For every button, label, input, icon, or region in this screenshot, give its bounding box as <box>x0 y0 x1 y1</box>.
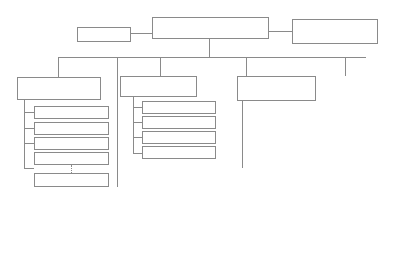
unit-box <box>34 152 109 165</box>
connector <box>269 31 292 32</box>
connector <box>133 107 142 108</box>
connector <box>24 128 34 129</box>
connector <box>160 57 161 76</box>
connector <box>209 39 210 57</box>
division-border-transportation <box>17 77 101 100</box>
unit-box <box>34 137 109 150</box>
unit-box <box>34 122 109 135</box>
unit-box <box>142 146 216 159</box>
connector <box>345 57 346 76</box>
state-local-box <box>292 19 378 44</box>
division-cbrn <box>237 76 316 101</box>
connector <box>133 153 142 154</box>
unit-box <box>142 101 216 114</box>
connector <box>242 101 243 168</box>
connector <box>133 137 142 138</box>
connector <box>58 57 59 77</box>
unit-box-visa <box>34 173 109 187</box>
unit-box <box>142 116 216 129</box>
dotted-connector <box>71 165 72 173</box>
secret-service-box <box>77 27 131 42</box>
connector <box>24 168 34 169</box>
connector <box>24 100 25 169</box>
unit-box <box>142 131 216 144</box>
secretary-box <box>152 17 269 39</box>
connector <box>133 97 134 154</box>
connector <box>246 57 247 77</box>
connector-bus <box>58 57 366 58</box>
unit-box <box>34 106 109 119</box>
connector <box>24 143 34 144</box>
connector <box>131 33 152 34</box>
connector-management <box>117 57 118 187</box>
connector <box>133 122 142 123</box>
division-emergency <box>120 76 197 97</box>
connector <box>24 112 34 113</box>
